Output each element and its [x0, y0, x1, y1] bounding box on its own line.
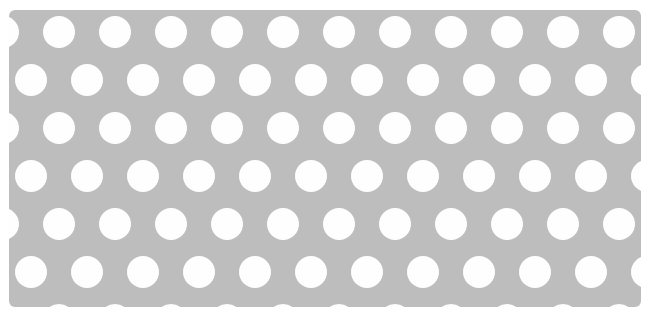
polka-dot: [603, 16, 635, 48]
polka-dot: [71, 64, 103, 96]
polka-dot: [407, 256, 439, 288]
polka-dot: [463, 256, 495, 288]
polka-dot: [547, 112, 579, 144]
image-canvas: Polka Dot Pattern Swatch Gray rectangula…: [0, 0, 666, 333]
polka-dot: [127, 160, 159, 192]
polka-dot: [211, 16, 243, 48]
polka-dot: [127, 64, 159, 96]
polka-dot: [295, 160, 327, 192]
image-title: Polka Dot Pattern Swatch: [0, 0, 1, 1]
polka-dot: [603, 208, 635, 240]
polka-dot: [99, 208, 131, 240]
polka-dot: [547, 208, 579, 240]
polka-dot: [323, 112, 355, 144]
polka-dot: [43, 112, 75, 144]
polka-dot: [519, 64, 551, 96]
polka-dot: [351, 256, 383, 288]
polka-dot: [211, 208, 243, 240]
polka-dot: [435, 112, 467, 144]
polka-dot: [43, 16, 75, 48]
polka-dot: [239, 256, 271, 288]
polka-dot: [435, 16, 467, 48]
polka-dot: [435, 208, 467, 240]
polka-dot: [267, 16, 299, 48]
polka-dot: [295, 256, 327, 288]
polka-dot: [71, 160, 103, 192]
polka-dot: [183, 64, 215, 96]
polka-dot: [127, 256, 159, 288]
polka-dot: [519, 160, 551, 192]
polka-dot: [491, 16, 523, 48]
polka-dot-pattern: [9, 10, 641, 307]
polka-dot: [183, 160, 215, 192]
polka-dot: [267, 208, 299, 240]
polka-dot: [99, 16, 131, 48]
polka-dot: [351, 64, 383, 96]
polka-dot: [379, 112, 411, 144]
polka-dot: [351, 160, 383, 192]
polka-dot: [547, 16, 579, 48]
polka-dot: [15, 256, 47, 288]
polka-dot: [15, 160, 47, 192]
polka-dot: [295, 64, 327, 96]
polka-dot: [379, 208, 411, 240]
polka-dot: [379, 16, 411, 48]
image-description: Gray rectangular fabric swatch covered w…: [0, 0, 1, 1]
polka-dot: [575, 160, 607, 192]
polka-dot: [239, 160, 271, 192]
polka-dot: [43, 208, 75, 240]
polka-dot: [407, 160, 439, 192]
polka-dot: [155, 16, 187, 48]
polka-dot: [519, 256, 551, 288]
polka-dot: [71, 256, 103, 288]
polka-dot: [463, 64, 495, 96]
polka-dot: [239, 64, 271, 96]
polka-dot: [491, 208, 523, 240]
polka-dot-swatch: [9, 10, 641, 307]
polka-dot: [323, 208, 355, 240]
polka-dot: [603, 112, 635, 144]
polka-dot: [491, 112, 523, 144]
polka-dot: [323, 16, 355, 48]
polka-dot: [463, 160, 495, 192]
polka-dot: [15, 64, 47, 96]
polka-dot: [407, 64, 439, 96]
polka-dot: [575, 64, 607, 96]
polka-dot: [155, 208, 187, 240]
polka-dot: [155, 112, 187, 144]
polka-dot: [99, 112, 131, 144]
polka-dot: [183, 256, 215, 288]
polka-dot: [211, 112, 243, 144]
polka-dot: [267, 112, 299, 144]
polka-dot: [575, 256, 607, 288]
